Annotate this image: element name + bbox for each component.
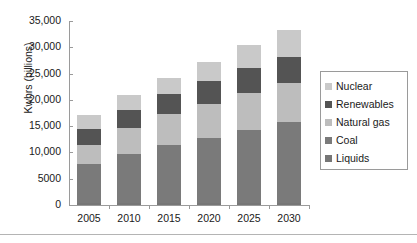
bar-segment-coal — [277, 122, 301, 202]
y-axis-tick-label: 35,000 — [29, 14, 61, 26]
legend-item-natural-gas: Natural gas — [325, 113, 407, 131]
x-axis-tick-mark — [149, 205, 150, 209]
x-axis-tick-mark — [109, 205, 110, 209]
x-axis-tick-mark — [189, 205, 190, 209]
bar-segment-liquids — [77, 203, 101, 205]
bar-segment-liquids — [157, 203, 181, 205]
chart-figure: Kwhrs (billions) 0500010,00015,00020,000… — [0, 0, 417, 243]
y-axis-tick-label: 0 — [55, 198, 61, 210]
plot-area — [69, 21, 309, 205]
bar-segment-coal — [197, 138, 221, 203]
bar-segment-renewables — [157, 94, 181, 115]
y-axis-tick-label: 25,000 — [29, 67, 61, 79]
legend-swatch-icon — [325, 119, 332, 126]
legend-item-label: Natural gas — [336, 117, 390, 128]
bottom-divider — [0, 234, 417, 235]
y-axis-tick-label: 15,000 — [29, 119, 61, 131]
legend-swatch-icon — [325, 101, 332, 108]
y-axis-tick-label: 10,000 — [29, 145, 61, 157]
y-axis-tick-label: 20,000 — [29, 93, 61, 105]
bar-2010 — [117, 95, 141, 205]
bar-2005 — [77, 115, 101, 205]
bar-segment-liquids — [237, 203, 261, 205]
bar-segment-liquids — [117, 203, 141, 205]
legend-item-label: Liquids — [336, 153, 369, 164]
legend-item-label: Renewables — [336, 99, 394, 110]
bar-segment-renewables — [77, 129, 101, 145]
bar-segment-nuclear — [157, 78, 181, 93]
bar-2015 — [157, 78, 181, 205]
bar-segment-renewables — [197, 81, 221, 104]
bar-2030 — [277, 30, 301, 205]
bar-segment-renewables — [237, 68, 261, 93]
bar-2025 — [237, 45, 261, 205]
legend-swatch-icon — [325, 83, 332, 90]
bar-segment-nuclear — [197, 62, 221, 81]
x-axis-tick-mark — [269, 205, 270, 209]
chart-legend: NuclearRenewablesNatural gasCoalLiquids — [320, 71, 408, 170]
bar-segment-coal — [117, 154, 141, 203]
bar-segment-coal — [157, 145, 181, 203]
legend-item-liquids: Liquids — [325, 149, 407, 167]
y-axis-tick-label: 5000 — [38, 172, 61, 184]
bar-segment-liquids — [197, 203, 221, 205]
bar-segment-renewables — [277, 57, 301, 83]
legend-item-coal: Coal — [325, 131, 407, 149]
bar-segment-liquids — [277, 203, 301, 205]
bar-segment-natural-gas — [117, 128, 141, 154]
x-axis-tick-mark — [229, 205, 230, 209]
y-axis-tick-label: 30,000 — [29, 40, 61, 52]
legend-item-renewables: Renewables — [325, 95, 407, 113]
x-axis-tick-mark — [309, 205, 310, 209]
legend-item-nuclear: Nuclear — [325, 77, 407, 95]
legend-swatch-icon — [325, 137, 332, 144]
legend-item-label: Coal — [336, 135, 358, 146]
bar-segment-natural-gas — [197, 104, 221, 138]
bar-2020 — [197, 62, 221, 205]
y-axis-tick-mark — [69, 205, 73, 206]
bar-segment-natural-gas — [237, 93, 261, 130]
legend-item-label: Nuclear — [336, 81, 372, 92]
x-axis-tick-label: 2030 — [259, 212, 319, 224]
bar-segment-renewables — [117, 110, 141, 128]
bar-segment-nuclear — [77, 115, 101, 129]
bar-segment-natural-gas — [77, 145, 101, 164]
bar-segment-nuclear — [277, 30, 301, 57]
bar-segment-natural-gas — [157, 114, 181, 144]
bar-segment-nuclear — [237, 45, 261, 68]
bar-segment-coal — [237, 130, 261, 203]
bar-segment-nuclear — [117, 95, 141, 109]
legend-swatch-icon — [325, 155, 332, 162]
bar-segment-coal — [77, 164, 101, 203]
bar-segment-natural-gas — [277, 83, 301, 122]
